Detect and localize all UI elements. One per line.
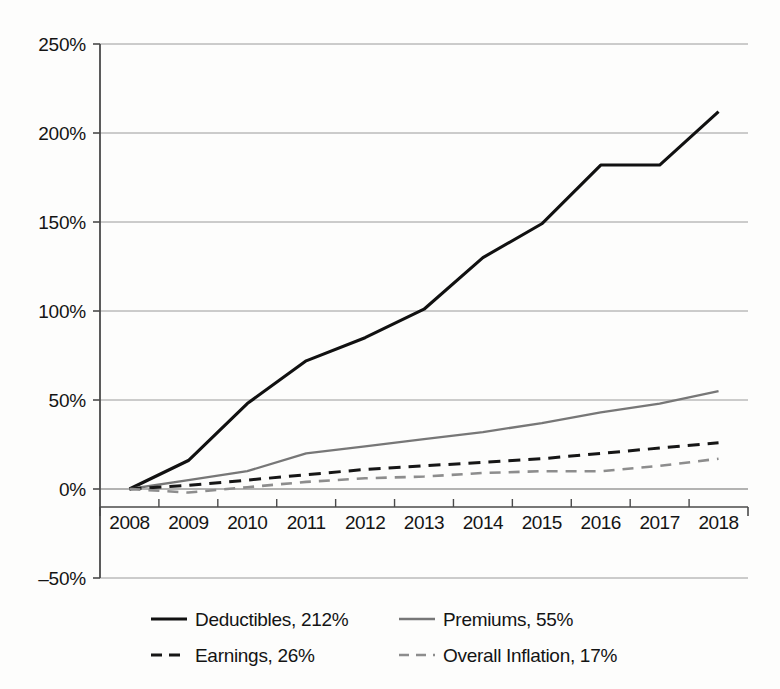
legend-item-earnings[interactable]: Earnings, 26% bbox=[150, 646, 398, 665]
legend-label-overall-inflation: Overall Inflation, 17% bbox=[443, 646, 617, 665]
y-axis-label: 50% bbox=[0, 391, 86, 410]
series-line-deductibles bbox=[129, 112, 718, 489]
legend-label-earnings: Earnings, 26% bbox=[195, 646, 315, 665]
legend-label-deductibles: Deductibles, 212% bbox=[195, 610, 348, 629]
chart-canvas: 250%200%150%100%50%0%‒50% 20082009201020… bbox=[0, 0, 780, 689]
y-axis-label: 0% bbox=[0, 480, 86, 499]
x-axis-label: 2010 bbox=[218, 513, 277, 532]
legend-row: Earnings, 26% Overall Inflation, 17% bbox=[150, 640, 670, 670]
x-axis-label: 2008 bbox=[100, 513, 159, 532]
legend-line-solid-black-icon bbox=[150, 612, 188, 626]
legend-line-dashed-gray-icon bbox=[398, 648, 436, 662]
legend-item-premiums[interactable]: Premiums, 55% bbox=[398, 610, 573, 629]
series-line-earnings bbox=[129, 443, 718, 489]
y-axis-label: 100% bbox=[0, 302, 86, 321]
chart-legend: Deductibles, 212% Premiums, 55% Earning bbox=[150, 604, 670, 674]
legend-item-deductibles[interactable]: Deductibles, 212% bbox=[150, 610, 398, 629]
x-axis-label: 2017 bbox=[630, 513, 689, 532]
series-lines bbox=[129, 112, 718, 493]
line-chart-graphic bbox=[0, 0, 780, 689]
x-axis-label: 2013 bbox=[395, 513, 454, 532]
x-axis-label: 2014 bbox=[453, 513, 512, 532]
x-axis-label: 2015 bbox=[512, 513, 571, 532]
legend-label-premiums: Premiums, 55% bbox=[443, 610, 573, 629]
y-axis-label: 150% bbox=[0, 213, 86, 232]
series-line-premiums bbox=[129, 391, 718, 489]
y-axis-label: 250% bbox=[0, 35, 86, 54]
x-axis-label: 2018 bbox=[689, 513, 748, 532]
legend-line-solid-gray-icon bbox=[398, 612, 436, 626]
y-axis-label: ‒50% bbox=[0, 569, 86, 588]
legend-row: Deductibles, 212% Premiums, 55% bbox=[150, 604, 670, 634]
x-axis-label: 2016 bbox=[571, 513, 630, 532]
legend-item-overall-inflation[interactable]: Overall Inflation, 17% bbox=[398, 646, 617, 665]
x-axis-label: 2011 bbox=[277, 513, 336, 532]
x-axis-label: 2009 bbox=[159, 513, 218, 532]
gridlines bbox=[100, 44, 748, 578]
legend-line-dashed-black-icon bbox=[150, 648, 188, 662]
x-axis-label: 2012 bbox=[336, 513, 395, 532]
y-axis-label: 200% bbox=[0, 124, 86, 143]
